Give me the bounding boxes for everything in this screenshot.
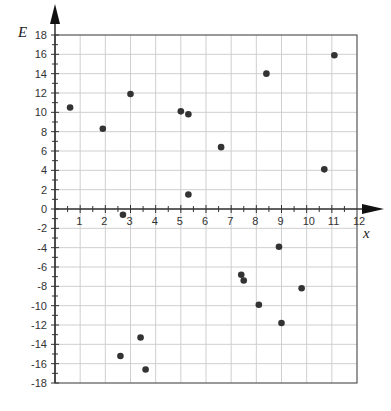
data-point (276, 243, 283, 250)
x-tick-label: 4 (152, 215, 158, 227)
data-point (137, 334, 144, 341)
data-point (67, 104, 74, 111)
data-point (278, 320, 285, 327)
y-tick-label: 14 (35, 68, 47, 80)
y-tick-label: -2 (37, 222, 47, 234)
y-tick-label: -8 (37, 280, 47, 292)
x-tick-label: 2 (101, 215, 107, 227)
y-tick-label: 4 (41, 164, 47, 176)
data-point (298, 285, 305, 292)
data-point (120, 212, 127, 219)
x-tick-label: 6 (202, 215, 208, 227)
x-tick-label: 10 (303, 215, 315, 227)
data-point (321, 166, 328, 173)
y-tick-label: -14 (31, 338, 47, 350)
data-point (331, 52, 338, 59)
data-point (178, 108, 185, 115)
data-point (142, 366, 149, 373)
scatter-chart: 123456789101112181614121086420-2-4-6-8-1… (0, 0, 391, 411)
x-tick-label: 5 (177, 215, 183, 227)
y-tick-label: 12 (35, 87, 47, 99)
x-tick-label: 7 (227, 215, 233, 227)
data-point (218, 144, 225, 151)
data-point (256, 301, 263, 308)
y-axis-label: E (17, 24, 27, 40)
data-point (240, 277, 247, 284)
x-axis-arrow-icon (362, 204, 384, 214)
y-tick-label: -10 (31, 300, 47, 312)
x-tick-label: 9 (278, 215, 284, 227)
data-point (185, 111, 192, 118)
data-point (238, 271, 245, 278)
axes (50, 4, 384, 383)
y-tick-label: 0 (41, 203, 47, 215)
y-tick-label: -18 (31, 377, 47, 389)
y-tick-label: 10 (35, 106, 47, 118)
x-tick-label: 8 (252, 215, 258, 227)
y-tick-label: -4 (37, 242, 47, 254)
y-axis-arrow-icon (50, 4, 60, 24)
y-tick-label: 18 (35, 29, 47, 41)
y-tick-label: -16 (31, 358, 47, 370)
data-point (100, 125, 107, 132)
x-tick-label: 11 (328, 215, 339, 227)
y-tick-label: 2 (41, 184, 47, 196)
x-tick-label: 1 (76, 215, 82, 227)
x-axis-label: x (362, 225, 370, 241)
data-point (263, 70, 270, 77)
data-point (127, 91, 134, 98)
y-tick-label: 8 (41, 126, 47, 138)
data-point (185, 191, 192, 198)
y-tick-label: 6 (41, 145, 47, 157)
y-tick-label: -12 (31, 319, 47, 331)
data-point (117, 353, 124, 360)
y-tick-label: 16 (35, 48, 47, 60)
x-tick-label: 3 (127, 215, 133, 227)
y-tick-label: -6 (37, 261, 47, 273)
